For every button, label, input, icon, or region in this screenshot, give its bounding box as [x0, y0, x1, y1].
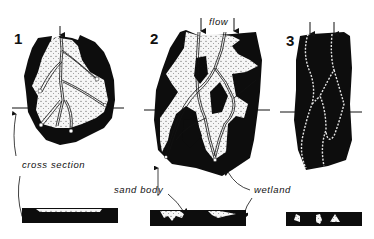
- panel-number-3: 3: [286, 32, 294, 49]
- diagram-canvas: [0, 0, 374, 239]
- panel-number-2: 2: [150, 30, 158, 47]
- panel-number-1: 1: [14, 30, 22, 47]
- cross-section-2: [150, 210, 246, 226]
- panel-1: [12, 26, 124, 145]
- cross-section-1: [22, 208, 118, 223]
- cross-section-label: cross section: [22, 159, 85, 170]
- flow-label: flow: [209, 16, 228, 27]
- panel-2: [144, 18, 270, 176]
- cross-section-3: [286, 212, 362, 226]
- sand-body-label: sand body: [114, 184, 163, 195]
- wetland-label: wetland: [254, 184, 291, 195]
